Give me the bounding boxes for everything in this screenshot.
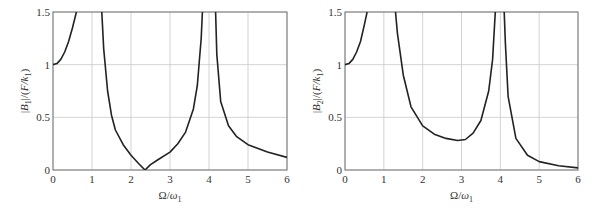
response-curve <box>53 12 76 65</box>
x-tick-label: 3 <box>167 173 173 185</box>
y-tick-label: 0 <box>45 164 51 176</box>
response-curve <box>345 12 367 65</box>
x-tick-label: 4 <box>206 173 212 185</box>
figure: 012345600.511.5Ω/ω1|B1|/(F/k1)012345600.… <box>0 0 593 208</box>
x-tick-label: 0 <box>50 173 56 185</box>
x-tick-label: 5 <box>245 173 251 185</box>
x-tick-label: 5 <box>536 173 542 185</box>
x-tick-label: 3 <box>459 173 465 185</box>
x-tick-label: 4 <box>498 173 504 185</box>
response-curve <box>102 12 203 170</box>
y-tick-label: 0 <box>337 164 343 176</box>
gridlines <box>345 12 578 170</box>
chart-2: 012345600.511.5Ω/ω1|B2|/(F/k1) <box>310 6 581 204</box>
response-curve <box>216 12 287 157</box>
y-tick-label: 1 <box>337 59 343 71</box>
y-tick-label: 0.5 <box>36 111 50 123</box>
chart-1: 012345600.511.5Ω/ω1|B1|/(F/k1) <box>18 6 290 204</box>
y-axis-label: |B2|/(F/k1) <box>310 69 325 114</box>
x-tick-label: 2 <box>420 173 426 185</box>
y-axis-label: |B1|/(F/k1) <box>18 69 33 114</box>
x-tick-label: 1 <box>89 173 95 185</box>
x-tick-label: 0 <box>342 173 348 185</box>
response-curve <box>504 12 578 168</box>
x-tick-label: 2 <box>128 173 134 185</box>
y-tick-label: 0.5 <box>328 111 342 123</box>
y-tick-label: 1.5 <box>36 6 50 18</box>
x-axis-label: Ω/ω1 <box>158 189 181 204</box>
x-tick-label: 1 <box>381 173 387 185</box>
x-tick-label: 6 <box>284 173 290 185</box>
x-axis-label: Ω/ω1 <box>450 189 473 204</box>
y-tick-label: 1.5 <box>328 6 342 18</box>
x-tick-label: 6 <box>575 173 581 185</box>
response-curve <box>396 12 496 141</box>
y-tick-label: 1 <box>45 59 51 71</box>
